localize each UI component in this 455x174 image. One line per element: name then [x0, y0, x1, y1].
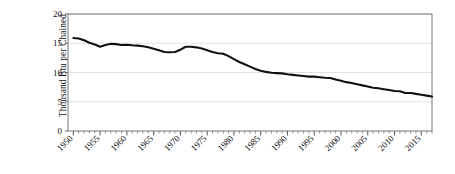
- x-axis-tick-labels: 1950195519601965197019751980198519901995…: [55, 133, 423, 153]
- chart-plot-area: 05101520 1950195519601965197019751980198…: [0, 0, 455, 174]
- x-tick-label: 1955: [82, 133, 102, 153]
- x-tick-label: 1980: [216, 133, 236, 153]
- y-axis-ticks: 05101520: [53, 9, 68, 136]
- x-tick-label: 1995: [296, 133, 316, 153]
- x-tick-label: 2015: [403, 133, 423, 153]
- y-tick-label: 5: [58, 97, 63, 107]
- y-tick-label: 15: [53, 38, 63, 48]
- y-tick-label: 10: [53, 68, 63, 78]
- y-tick-label: 20: [53, 9, 63, 19]
- x-tick-label: 1965: [135, 133, 155, 153]
- x-tick-label: 1970: [162, 133, 182, 153]
- x-tick-label: 1990: [269, 133, 289, 153]
- x-tick-label: 1960: [108, 133, 128, 153]
- x-tick-label: 1975: [189, 133, 209, 153]
- x-tick-label: 2000: [323, 133, 343, 153]
- chart-figure: Thousand Btu per Chained (2009) Dollar 0…: [0, 0, 455, 174]
- x-tick-label: 1985: [242, 133, 262, 153]
- x-tick-label: 2010: [376, 133, 396, 153]
- y-tick-label: 0: [58, 126, 63, 136]
- x-tick-label: 2005: [349, 133, 369, 153]
